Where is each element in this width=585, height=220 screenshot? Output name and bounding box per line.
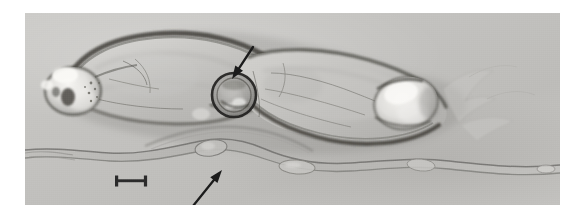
ventral-sucker-ring bbox=[212, 73, 256, 117]
figure-root bbox=[0, 0, 585, 220]
translucent-tissue-right bbox=[443, 65, 535, 141]
lower-arrow bbox=[193, 170, 222, 205]
specimen-illustration bbox=[25, 13, 560, 205]
scale-bar bbox=[115, 176, 147, 187]
thread-worm-swelling bbox=[194, 138, 228, 158]
micrograph-plate bbox=[25, 13, 560, 205]
